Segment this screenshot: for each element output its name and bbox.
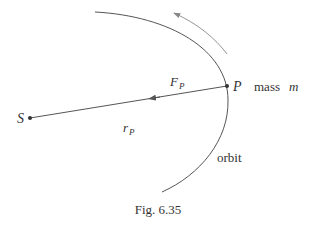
radius-line	[30, 86, 227, 118]
planet-point	[225, 84, 229, 88]
orbit-curve	[95, 12, 228, 192]
force-subscript: P	[178, 81, 185, 91]
mass-symbol: m	[289, 79, 298, 94]
planet-label: P	[232, 79, 242, 94]
mass-label: mass	[254, 79, 280, 94]
motion-direction-arrow	[174, 13, 227, 54]
force-label: F	[169, 74, 179, 89]
sun-label: S	[17, 111, 24, 126]
sun-point	[28, 116, 32, 120]
force-arrow	[152, 97, 160, 98]
orbit-diagram: S P mass m F P r P orbit Fig. 6.35	[0, 0, 312, 225]
radius-subscript: P	[128, 127, 135, 137]
figure-caption: Fig. 6.35	[135, 202, 182, 217]
orbit-label: orbit	[217, 150, 242, 165]
